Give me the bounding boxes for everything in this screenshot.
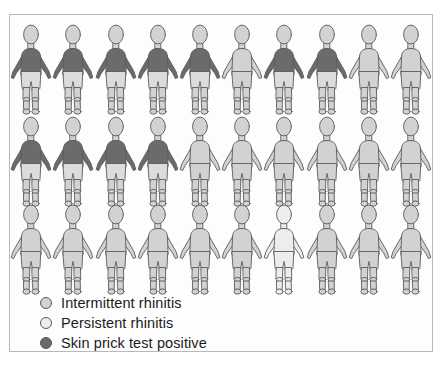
- person-icon: [179, 201, 221, 297]
- figure-row: [10, 21, 432, 117]
- person-icon: [348, 201, 390, 297]
- chart-panel: Intermittent rhinitis Persistent rhiniti…: [9, 14, 433, 352]
- legend-swatch-icon: [40, 337, 52, 349]
- figure-row-inner: [10, 201, 432, 297]
- person-icon: [10, 201, 52, 297]
- person-icon: [348, 21, 390, 117]
- pictogram-area: [10, 15, 432, 287]
- figure-row-inner: [10, 113, 432, 209]
- figure-row: [10, 201, 432, 297]
- figure-row: [10, 113, 432, 209]
- legend-item-persistent: Persistent rhinitis: [40, 313, 400, 332]
- person-icon: [221, 201, 263, 297]
- legend-swatch-icon: [40, 297, 52, 309]
- person-icon: [306, 113, 348, 209]
- person-icon: [179, 21, 221, 117]
- legend-item-label: Skin prick test positive: [61, 335, 207, 351]
- figure-row-inner: [10, 21, 432, 117]
- person-icon: [52, 113, 94, 209]
- person-icon: [137, 201, 179, 297]
- legend: Intermittent rhinitis Persistent rhiniti…: [40, 293, 400, 353]
- person-icon: [390, 113, 432, 209]
- person-icon: [137, 113, 179, 209]
- legend-item-label: Intermittent rhinitis: [61, 295, 182, 311]
- legend-item-skin-prick: Skin prick test positive: [40, 333, 400, 352]
- person-icon: [263, 113, 305, 209]
- legend-item-intermittent: Intermittent rhinitis: [40, 293, 400, 312]
- person-icon: [95, 113, 137, 209]
- person-icon: [10, 21, 52, 117]
- person-icon: [390, 21, 432, 117]
- person-icon: [263, 201, 305, 297]
- person-icon: [95, 21, 137, 117]
- person-icon: [263, 21, 305, 117]
- pictogram-figure: Intermittent rhinitis Persistent rhiniti…: [0, 0, 445, 367]
- person-icon: [390, 201, 432, 297]
- legend-item-label: Persistent rhinitis: [61, 315, 173, 331]
- person-icon: [348, 113, 390, 209]
- person-icon: [52, 21, 94, 117]
- person-icon: [95, 201, 137, 297]
- legend-swatch-icon: [40, 317, 52, 329]
- person-icon: [137, 21, 179, 117]
- person-icon: [10, 113, 52, 209]
- person-icon: [221, 113, 263, 209]
- person-icon: [179, 113, 221, 209]
- person-icon: [306, 201, 348, 297]
- person-icon: [221, 21, 263, 117]
- person-icon: [306, 21, 348, 117]
- person-icon: [52, 201, 94, 297]
